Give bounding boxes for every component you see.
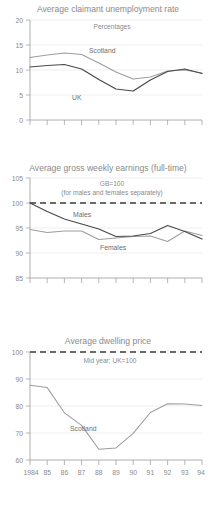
chart-panel-unemployment: Average claimant unemployment rate Perce… xyxy=(0,0,208,160)
earnings-chart-svg: Average gross weekly earnings (full-time… xyxy=(0,160,208,332)
chart2-series-females xyxy=(30,230,202,242)
chart1-series-uk xyxy=(30,65,202,92)
chart3-subtitle: Mid year; UK=100 xyxy=(84,357,137,365)
chart3-gridlines xyxy=(30,352,202,433)
chart1-series-scotland xyxy=(30,53,202,79)
xlabel-1984: 1984 xyxy=(23,469,38,476)
xlabel-87: 87 xyxy=(78,469,86,476)
chart1-gridlines xyxy=(30,20,202,95)
chart1-label-uk: UK xyxy=(72,94,82,101)
chart1-ytick-15: 15 xyxy=(15,42,23,49)
xlabel-89: 89 xyxy=(112,469,120,476)
chart1-title: Average claimant unemployment rate xyxy=(37,4,179,14)
chart2-label-females: Females xyxy=(100,244,127,251)
chart2-ytick-105: 105 xyxy=(12,175,24,182)
xlabel-85: 85 xyxy=(43,469,51,476)
chart3-ytick-100: 100 xyxy=(12,349,24,356)
dwelling-price-chart-svg: Average dwelling price Mid year; UK=100 … xyxy=(0,332,208,506)
chart3-label-scotland: Scotland xyxy=(70,425,97,432)
chart1-ytick-20: 20 xyxy=(15,17,23,24)
chart1-label-scotland: Scotland xyxy=(89,47,116,54)
chart1-subtitle: Percentages xyxy=(93,23,131,31)
chart2-y-ticks: 105 100 95 90 85 xyxy=(12,175,30,282)
chart-panel-dwelling-price: Average dwelling price Mid year; UK=100 … xyxy=(0,332,208,506)
xlabel-90: 90 xyxy=(129,469,137,476)
xlabel-88: 88 xyxy=(95,469,103,476)
chart3-y-ticks: 100 90 80 70 60 xyxy=(12,349,30,464)
chart2-ytick-95: 95 xyxy=(15,225,23,232)
chart1-y-ticks: 20 15 10 5 0 xyxy=(15,17,30,124)
chart3-title: Average dwelling price xyxy=(65,336,152,346)
chart3-x-ticks xyxy=(30,460,202,465)
figure-three-panel-line-charts: Average claimant unemployment rate Perce… xyxy=(0,0,208,506)
chart3-ytick-90: 90 xyxy=(15,376,23,383)
chart3-ytick-60: 60 xyxy=(15,457,23,464)
chart1-ytick-10: 10 xyxy=(15,67,23,74)
chart2-x-ticks xyxy=(30,278,202,283)
chart3-series-scotland xyxy=(30,385,202,449)
chart2-subtitle: GB=100 xyxy=(100,180,125,187)
chart2-ytick-90: 90 xyxy=(15,250,23,257)
chart1-ytick-5: 5 xyxy=(19,92,23,99)
chart2-title: Average gross weekly earnings (full-time… xyxy=(29,163,187,173)
chart3-ytick-80: 80 xyxy=(15,403,23,410)
chart3-ytick-70: 70 xyxy=(15,430,23,437)
xlabel-94: 94 xyxy=(197,469,205,476)
chart1-x-ticks xyxy=(30,120,202,125)
chart3-x-labels: 1984 85 86 87 88 89 90 91 92 93 94 xyxy=(23,469,205,476)
chart1-ytick-0: 0 xyxy=(19,117,23,124)
xlabel-86: 86 xyxy=(61,469,69,476)
chart2-label-males: Males xyxy=(73,211,92,218)
chart2-ytick-85: 85 xyxy=(15,275,23,282)
chart2-ytick-100: 100 xyxy=(12,200,24,207)
chart-panel-earnings: Average gross weekly earnings (full-time… xyxy=(0,160,208,332)
unemployment-chart-svg: Average claimant unemployment rate Perce… xyxy=(0,0,208,160)
chart2-series-males xyxy=(30,203,202,239)
xlabel-91: 91 xyxy=(147,469,155,476)
xlabel-93: 93 xyxy=(181,469,189,476)
xlabel-92: 92 xyxy=(164,469,172,476)
chart2-subtitle2: (for males and females separately) xyxy=(61,189,163,197)
